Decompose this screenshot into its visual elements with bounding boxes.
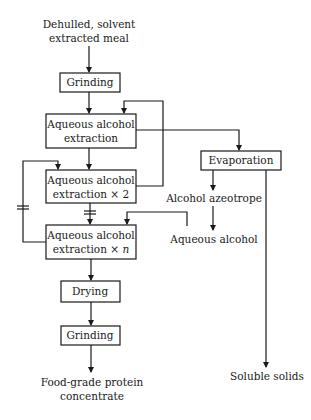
evaporation-label: Evaporation — [209, 154, 274, 166]
arrow-extraction1-to-evaporation — [136, 130, 239, 150]
grinding-label-2: Grinding — [66, 329, 113, 341]
extractionN-label-line1: Aqueous alcohol — [46, 229, 135, 241]
extraction2-label-line1: Aqueous alcohol — [46, 174, 135, 186]
soluble-solids-label: Soluble solids — [230, 370, 304, 382]
extraction-box-n: Aqueous alcohol extraction × n — [46, 225, 136, 259]
extractionN-label-line2: extraction × n — [53, 243, 130, 255]
extraction-box-2: Aqueous alcohol extraction × 2 — [46, 170, 136, 203]
extraction-box-1: Aqueous alcohol extraction — [46, 114, 136, 148]
arrow-aqueous-alcohol-to-extractionN — [127, 212, 187, 226]
extraction1-label-line1: Aqueous alcohol — [46, 118, 135, 130]
product-label-line1: Food-grade protein — [41, 376, 144, 388]
extraction1-label-line2: extraction — [64, 132, 118, 144]
start-label-line1: Dehulled, solvent — [43, 18, 136, 30]
start-label-line2: extracted meal — [49, 32, 129, 44]
aqueous-alcohol-label: Aqueous alcohol — [169, 233, 258, 245]
grinding-box-2: Grinding — [61, 326, 120, 345]
alcohol-azeotrope-label: Alcohol azeotrope — [165, 192, 262, 204]
drying-label: Drying — [72, 285, 108, 297]
extraction2-label-line2: extraction × 2 — [53, 188, 129, 200]
process-flow-diagram: Dehulled, solvent extracted meal Grindin… — [0, 0, 311, 420]
grinding-box-1: Grinding — [60, 73, 120, 92]
evaporation-box: Evaporation — [201, 151, 281, 170]
drying-box: Drying — [61, 281, 120, 302]
grinding-label-1: Grinding — [66, 76, 113, 88]
product-label-line2: concentrate — [60, 390, 124, 402]
